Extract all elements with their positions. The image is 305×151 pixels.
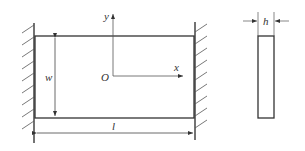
length-label: l <box>112 120 115 132</box>
origin-label: O <box>101 71 109 83</box>
x-axis-label: x <box>173 61 179 73</box>
y-axis-label: y <box>103 10 109 22</box>
right-wall <box>195 22 207 140</box>
plate-diagram: y x O w l h <box>0 0 305 151</box>
coordinate-axes <box>113 14 183 76</box>
plate-plan-rect <box>35 36 194 118</box>
thickness-label: h <box>263 15 269 27</box>
left-wall <box>22 23 34 143</box>
plate-side-rect <box>258 36 274 118</box>
width-label: w <box>45 71 53 83</box>
